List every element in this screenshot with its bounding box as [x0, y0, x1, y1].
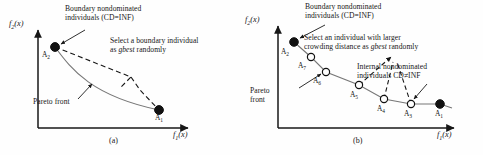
point-label-a1: A1: [155, 113, 163, 123]
leader-boundary-to-a2: [61, 30, 85, 44]
panel-b-internal-annotation: Internal nondominated individuals CD≠INF: [357, 62, 427, 80]
y-axis-arg: (x): [250, 15, 259, 24]
boundary-annotation-line1: Boundary nondominated: [305, 2, 381, 11]
pareto-front-curve: [55, 47, 159, 110]
point-label-a2-sub: 2: [286, 51, 289, 57]
point-label-a2: A2: [281, 47, 289, 57]
point-a7[interactable]: [307, 53, 314, 60]
point-label-a2-sub: 2: [47, 54, 50, 60]
leader-pareto-front: [78, 84, 92, 99]
point-label-a2: A2: [42, 50, 50, 60]
boundary-annotation-line2: individuals (CD=INF): [65, 13, 141, 22]
point-a6[interactable]: [322, 68, 329, 75]
x-axis-arg: (x): [442, 130, 451, 139]
boundary-annotation-line2: individuals (CD=INF): [305, 11, 381, 20]
select-line2-post: randomly: [387, 42, 418, 51]
leader-internal-to-a3: [414, 84, 427, 99]
point-label-a1-sub: 1: [440, 113, 443, 119]
point-a2[interactable]: [51, 43, 60, 52]
point-label-a4: A4: [377, 104, 385, 114]
point-label-a6: A6: [313, 76, 321, 86]
point-label-a7-sub: 7: [303, 65, 306, 71]
point-label-a3: A3: [404, 109, 412, 119]
panel-a-caption: (a): [109, 136, 118, 145]
point-a3[interactable]: [407, 100, 414, 107]
point-label-a5-sub: 5: [355, 94, 358, 100]
select-annotation-line1: Select an individual with larger: [304, 33, 418, 42]
point-label-a7: A7: [298, 61, 306, 71]
panel-a-x-axis-label: f1(x): [173, 130, 188, 141]
select-annotation-line2: as gbest randomly: [110, 45, 199, 54]
figure-canvas: f2(x) f1(x) Boundary nondominated indivi…: [0, 0, 483, 155]
dashed-selection-path-lower: [131, 77, 159, 110]
point-a1[interactable]: [436, 100, 445, 109]
boundary-annotation-line1: Boundary nondominated: [65, 4, 141, 13]
point-label-a1-sub: 1: [160, 117, 163, 123]
point-label-a1: A1: [435, 109, 443, 119]
panel-a-graphics: [0, 0, 241, 155]
point-label-a4-sub: 4: [382, 108, 385, 114]
panel-a-pareto-front-label: Pareto front: [33, 97, 70, 106]
panel-b: f2(x) f1(x) Boundary nondominated indivi…: [241, 0, 483, 155]
panel-a-y-axis-label: f2(x): [9, 19, 24, 30]
panel-b-caption: (b): [353, 136, 362, 145]
panel-a-boundary-annotation: Boundary nondominated individuals (CD=IN…: [65, 4, 141, 22]
point-a5[interactable]: [355, 81, 362, 88]
x-axis-arg: (x): [178, 130, 187, 139]
point-label-a5: A5: [350, 90, 358, 100]
select-line2-pre: crowding distance as: [304, 42, 371, 51]
panel-b-y-axis-label: f2(x): [245, 15, 260, 26]
panel-a-select-annotation: Select a boundary individual as gbest ra…: [110, 36, 199, 54]
select-line2-gbest: gbest: [371, 42, 387, 51]
internal-annotation-line2: individuals CD≠INF: [357, 71, 427, 80]
select-line2-post: randomly: [135, 45, 166, 54]
point-a2[interactable]: [290, 38, 299, 47]
point-label-a3-sub: 3: [409, 113, 412, 119]
panel-b-pareto-front-label: Pareto front: [250, 86, 270, 104]
pareto-front-line2: front: [250, 95, 270, 104]
panel-b-boundary-annotation: Boundary nondominated individuals (CD=IN…: [305, 2, 381, 20]
panel-b-select-annotation: Select an individual with larger crowdin…: [304, 33, 418, 51]
pareto-front-line1: Pareto: [250, 86, 270, 95]
internal-annotation-line1: Internal nondominated: [357, 62, 427, 71]
select-annotation-line1: Select a boundary individual: [110, 36, 199, 45]
y-axis-arg: (x): [14, 19, 23, 28]
point-a4[interactable]: [380, 95, 387, 102]
panel-b-x-axis-label: f1(x): [437, 130, 452, 141]
panel-a: f2(x) f1(x) Boundary nondominated indivi…: [0, 0, 241, 155]
point-label-a6-sub: 6: [318, 80, 321, 86]
select-annotation-line2: crowding distance as gbest randomly: [304, 42, 418, 51]
select-line2-gbest: gbest: [118, 45, 134, 54]
